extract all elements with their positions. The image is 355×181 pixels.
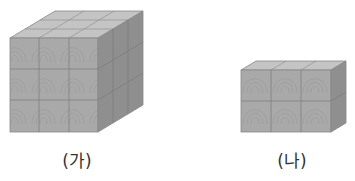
cube-3x3x3 (10, 11, 143, 132)
front-face (10, 38, 98, 132)
figure-label-na: (나) (277, 147, 306, 172)
top-face (241, 61, 346, 70)
figure-label-ga: (가) (62, 147, 91, 172)
box-3x2x1 (241, 61, 346, 132)
